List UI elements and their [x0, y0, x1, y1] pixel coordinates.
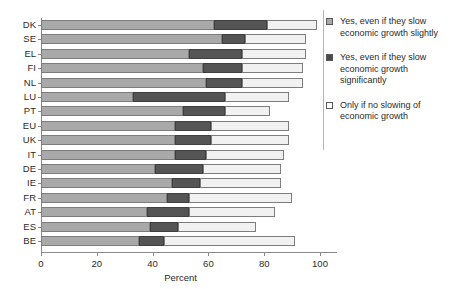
bar-segment[interactable]	[41, 49, 189, 59]
category-label: BE	[0, 235, 36, 246]
bar-segment[interactable]	[206, 78, 242, 88]
bar-segment[interactable]	[214, 20, 267, 30]
bar-segment[interactable]	[267, 20, 317, 30]
category-label: FR	[0, 192, 36, 203]
y-tick-mark	[38, 25, 41, 26]
y-tick-mark	[38, 169, 41, 170]
y-tick-mark	[38, 68, 41, 69]
y-tick-mark	[38, 126, 41, 127]
chart-figure: DKSEELFINLLUPTEUUKITDEIEFRATESBE 0204060…	[0, 0, 457, 289]
y-tick-mark	[38, 140, 41, 141]
legend: Yes, even if they slow economic growth s…	[326, 16, 454, 136]
bar-segment[interactable]	[41, 150, 175, 160]
y-tick-mark	[38, 212, 41, 213]
bar-segment[interactable]	[150, 222, 178, 232]
bar-segment[interactable]	[175, 121, 211, 131]
bar-segment[interactable]	[175, 150, 206, 160]
category-label: FI	[0, 62, 36, 73]
bar-segment[interactable]	[242, 63, 303, 73]
bar-segment[interactable]	[41, 236, 139, 246]
legend-entry[interactable]: Yes, even if they slow economic growth s…	[326, 52, 454, 87]
category-label: NL	[0, 77, 36, 88]
bar-segment[interactable]	[41, 207, 147, 217]
bar-segment[interactable]	[41, 106, 183, 116]
bar-segment[interactable]	[206, 150, 284, 160]
x-axis-line	[41, 252, 337, 253]
category-label: IT	[0, 149, 36, 160]
legend-divider	[323, 10, 324, 150]
bar-segment[interactable]	[41, 178, 172, 188]
x-tick-mark	[320, 252, 321, 256]
y-tick-mark	[38, 111, 41, 112]
legend-label: Only if no slowing of economic growth	[340, 100, 454, 123]
category-label: PT	[0, 105, 36, 116]
legend-entry[interactable]: Yes, even if they slow economic growth s…	[326, 16, 454, 39]
bar-segment[interactable]	[175, 135, 211, 145]
bar-segment[interactable]	[225, 106, 270, 116]
bar-segment[interactable]	[41, 222, 150, 232]
y-tick-mark	[38, 39, 41, 40]
bar-segment[interactable]	[178, 222, 256, 232]
category-label: EU	[0, 120, 36, 131]
y-tick-mark	[38, 54, 41, 55]
bar-segment[interactable]	[41, 135, 175, 145]
y-tick-mark	[38, 83, 41, 84]
bar-segment[interactable]	[172, 178, 200, 188]
legend-swatch-icon	[326, 54, 333, 61]
y-tick-mark	[38, 155, 41, 156]
bar-segment[interactable]	[203, 164, 281, 174]
bar-segment[interactable]	[203, 63, 242, 73]
bar-segment[interactable]	[41, 34, 222, 44]
bar-segment[interactable]	[225, 92, 289, 102]
category-label: LU	[0, 91, 36, 102]
x-tick-label: 40	[147, 258, 158, 269]
bar-segment[interactable]	[167, 193, 189, 203]
bar-segment[interactable]	[200, 178, 281, 188]
bar-segment[interactable]	[41, 20, 214, 30]
bar-segment[interactable]	[41, 78, 206, 88]
bar-segment[interactable]	[189, 207, 275, 217]
x-tick-label: 60	[203, 258, 214, 269]
y-tick-mark	[38, 97, 41, 98]
bar-segment[interactable]	[242, 49, 306, 59]
category-label: UK	[0, 134, 36, 145]
bar-segment[interactable]	[41, 193, 167, 203]
y-tick-mark	[38, 183, 41, 184]
bar-segment[interactable]	[41, 63, 203, 73]
x-tick-mark	[153, 252, 154, 256]
bar-segment[interactable]	[147, 207, 189, 217]
category-label: AT	[0, 206, 36, 217]
y-tick-mark	[38, 241, 41, 242]
category-label: DE	[0, 163, 36, 174]
legend-label: Yes, even if they slow economic growth s…	[340, 52, 454, 87]
category-label: IE	[0, 177, 36, 188]
bar-segment[interactable]	[189, 193, 292, 203]
legend-label: Yes, even if they slow economic growth s…	[340, 16, 454, 39]
legend-entry[interactable]: Only if no slowing of economic growth	[326, 100, 454, 123]
bar-segment[interactable]	[242, 78, 303, 88]
x-tick-label: 80	[259, 258, 270, 269]
x-tick-label: 100	[312, 258, 328, 269]
bar-segment[interactable]	[155, 164, 202, 174]
category-label: EL	[0, 48, 36, 59]
y-tick-mark	[38, 227, 41, 228]
bar-segment[interactable]	[222, 34, 244, 44]
bar-segment[interactable]	[189, 49, 242, 59]
bar-segment[interactable]	[164, 236, 295, 246]
bar-segment[interactable]	[41, 92, 133, 102]
x-axis-label: Percent	[41, 272, 320, 283]
category-label: DK	[0, 19, 36, 30]
bar-segment[interactable]	[41, 164, 155, 174]
legend-swatch-icon	[326, 102, 333, 109]
bar-segment[interactable]	[211, 135, 289, 145]
bar-segment[interactable]	[133, 92, 225, 102]
bar-segment[interactable]	[183, 106, 225, 116]
x-tick-mark	[264, 252, 265, 256]
bar-segment[interactable]	[139, 236, 164, 246]
y-tick-mark	[38, 198, 41, 199]
x-tick-mark	[208, 252, 209, 256]
bar-segment[interactable]	[245, 34, 306, 44]
bar-segment[interactable]	[211, 121, 289, 131]
legend-swatch-icon	[326, 18, 333, 25]
bar-segment[interactable]	[41, 121, 175, 131]
